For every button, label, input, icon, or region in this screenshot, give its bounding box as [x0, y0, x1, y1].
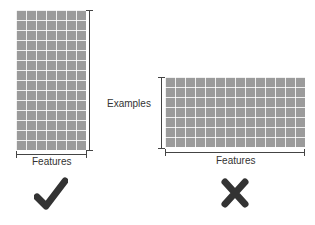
examples-label: Examples [107, 98, 151, 109]
features-label-right: Features [216, 155, 255, 166]
features-label-left: Features [32, 156, 71, 167]
wide-data-grid [165, 77, 305, 147]
checkmark-icon [34, 176, 68, 210]
features-axis-right [165, 152, 305, 153]
examples-axis-right [161, 77, 162, 149]
examples-axis-left [89, 10, 90, 151]
cross-icon [220, 177, 250, 209]
features-axis-left [16, 154, 87, 155]
tall-data-grid [16, 10, 86, 150]
